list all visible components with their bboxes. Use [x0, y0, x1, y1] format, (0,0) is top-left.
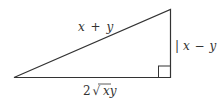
hypotenuse-label: x + y — [78, 20, 114, 34]
right-angle-marker — [159, 66, 171, 78]
horizontal-leg-label: 2 √ xy — [83, 84, 117, 98]
svg-text:2 √ xy: 2 √ xy — [83, 84, 117, 98]
vertical-leg-label: | x − y | — [175, 39, 218, 53]
right-triangle-diagram: x + y | x − y | 2 √ xy — [0, 0, 218, 104]
